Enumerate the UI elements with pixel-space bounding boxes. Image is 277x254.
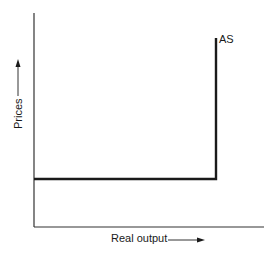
- as-curve-label: AS: [219, 33, 234, 45]
- x-axis-label: Real output: [111, 232, 167, 244]
- y-axis-label: Prices: [12, 98, 24, 129]
- as-chart: [0, 0, 277, 254]
- as-curve: [34, 38, 216, 179]
- x-axis-arrow-icon: [168, 238, 205, 243]
- y-axis-arrow-icon: [16, 59, 21, 96]
